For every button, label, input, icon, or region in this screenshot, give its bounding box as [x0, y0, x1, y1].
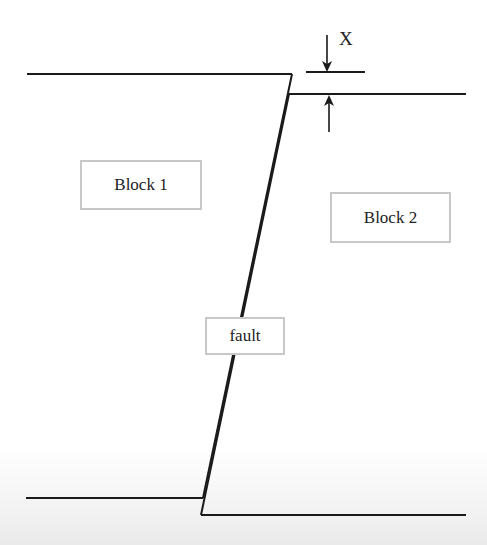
fault-line-right — [201, 94, 289, 515]
block1-label-box: Block 1 — [80, 160, 202, 210]
offset-down-arrow — [322, 35, 332, 72]
fault-diagram — [0, 0, 487, 545]
offset-up-arrow — [324, 95, 334, 132]
fault-label-box: fault — [205, 317, 285, 355]
fault-line-left — [203, 74, 292, 498]
block2-label-box: Block 2 — [330, 192, 451, 243]
offset-label: X — [339, 28, 353, 50]
block1-label: Block 1 — [114, 175, 167, 195]
block2-label: Block 2 — [364, 208, 417, 228]
fault-label: fault — [229, 326, 260, 346]
